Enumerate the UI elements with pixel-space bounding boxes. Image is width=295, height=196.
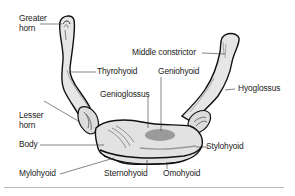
geniohyoid-attachment <box>145 129 175 141</box>
label-hyoglossus: Hyoglossus <box>238 84 280 94</box>
label-lesser-horn-line2: horn <box>19 121 35 131</box>
label-thyrohyoid: Thyrohyoid <box>97 67 137 77</box>
label-greater-horn-line2: horn <box>19 24 35 34</box>
label-mylohyoid: Mylohyoid <box>19 169 56 179</box>
bottom-divider <box>4 187 284 188</box>
label-sternohyoid: Sternohyoid <box>104 169 148 179</box>
hyoid-diagram: Greater horn Middle constrictor Thyrohyo… <box>0 0 295 196</box>
label-geniohyoid: Geniohyoid <box>158 67 199 77</box>
label-middle-constrictor: Middle constrictor <box>132 48 196 58</box>
label-stylohyoid: Stylohyoid <box>206 142 244 152</box>
label-omohyoid: Omohyoid <box>163 169 200 179</box>
label-body: Body <box>19 140 38 150</box>
label-genioglossus: Genioglossus <box>100 90 150 100</box>
